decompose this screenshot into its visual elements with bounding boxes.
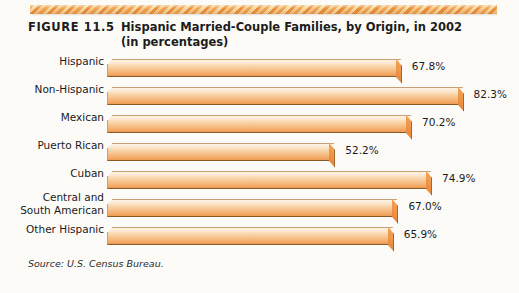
source-note: Source: U.S. Census Bureau. [28, 258, 164, 269]
bar-value-label: 67.8% [412, 60, 445, 72]
bar [107, 87, 458, 106]
bar-end-cap [392, 199, 398, 223]
category-label: Mexican [0, 111, 104, 124]
bar-end-cap [388, 227, 394, 251]
bar [107, 115, 406, 134]
bar-end-cap [406, 115, 412, 139]
bar [107, 199, 392, 218]
bar-front-face [107, 176, 426, 189]
category-label: Cuban [0, 167, 104, 180]
bar-value-label: 82.3% [474, 88, 507, 100]
bar-value-label: 74.9% [442, 172, 475, 184]
bar-row: Central and South American67.0% [0, 195, 519, 223]
figure-header: FIGURE 11.5 Hispanic Married-Couple Fami… [28, 20, 498, 49]
bar-row: Puerto Rican52.2% [0, 139, 519, 167]
figure-container: FIGURE 11.5 Hispanic Married-Couple Fami… [0, 0, 519, 293]
bar-front-face [107, 120, 406, 133]
band-shadow [32, 14, 497, 16]
bar-front-face [107, 92, 458, 105]
bar-row: Mexican70.2% [0, 111, 519, 139]
bar-front-face [107, 232, 388, 245]
bar-value-label: 67.0% [408, 200, 441, 212]
category-label: Non-Hispanic [0, 83, 104, 96]
category-label: Other Hispanic [0, 223, 104, 236]
bar-end-cap [426, 171, 432, 195]
category-label: Puerto Rican [0, 139, 104, 152]
bar-end-cap [329, 143, 335, 167]
bar-row: Non-Hispanic82.3% [0, 83, 519, 111]
figure-title-line1: Hispanic Married-Couple Families, by Ori… [121, 20, 462, 34]
figure-title: Hispanic Married-Couple Families, by Ori… [121, 20, 462, 49]
bar-value-label: 65.9% [404, 228, 437, 240]
figure-title-line2: (in percentages) [121, 35, 462, 50]
bar [107, 227, 388, 246]
bar-end-cap [458, 87, 464, 111]
bar [107, 59, 396, 78]
category-label: Central and South American [0, 191, 104, 216]
bar-front-face [107, 64, 396, 77]
bar-end-cap [396, 59, 402, 83]
bar-row: Other Hispanic65.9% [0, 223, 519, 251]
bar-chart: Hispanic67.8%Non-Hispanic82.3%Mexican70.… [0, 55, 519, 255]
decorative-zigzag-band [30, 5, 497, 14]
bar-front-face [107, 148, 329, 161]
bar-value-label: 70.2% [422, 116, 455, 128]
bar [107, 143, 329, 162]
bar-value-label: 52.2% [345, 144, 378, 156]
category-label: Hispanic [0, 55, 104, 68]
bar-row: Hispanic67.8% [0, 55, 519, 83]
figure-number: FIGURE 11.5 [28, 20, 121, 34]
bar [107, 171, 426, 190]
bar-front-face [107, 204, 392, 217]
